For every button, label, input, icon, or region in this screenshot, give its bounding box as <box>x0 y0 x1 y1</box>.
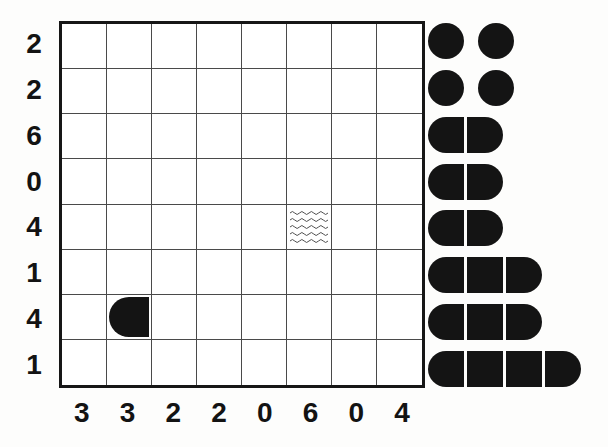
board-cell-r4-c1[interactable] <box>62 159 107 204</box>
board-cell-r5-c3[interactable] <box>152 205 197 250</box>
fleet-right-end-icon <box>467 117 503 153</box>
board-cell-r2-c6[interactable] <box>287 69 332 114</box>
row-clue-3: 6 <box>14 113 54 159</box>
board-cell-r5-c7[interactable] <box>332 205 377 250</box>
board-cell-r2-c8[interactable] <box>377 69 422 114</box>
board-cell-r2-c2[interactable] <box>107 69 152 114</box>
board-cell-r8-c2[interactable] <box>107 340 152 385</box>
col-clue-5: 0 <box>242 392 288 434</box>
board-cell-r4-c8[interactable] <box>377 159 422 204</box>
board-cell-r4-c7[interactable] <box>332 159 377 204</box>
board-cell-r1-c7[interactable] <box>332 24 377 69</box>
board-cell-r8-c7[interactable] <box>332 340 377 385</box>
board-cell-r3-c1[interactable] <box>62 114 107 159</box>
col-clue-8: 4 <box>379 392 425 434</box>
fleet-row-size-2-4 <box>428 163 603 201</box>
fleet-right-end-icon <box>506 257 542 293</box>
board-cell-r1-c6[interactable] <box>287 24 332 69</box>
ship-left-end-icon <box>109 297 149 337</box>
board-cell-r6-c5[interactable] <box>242 250 287 295</box>
board-cell-r4-c6[interactable] <box>287 159 332 204</box>
board-cell-r8-c5[interactable] <box>242 340 287 385</box>
board-cell-r3-c8[interactable] <box>377 114 422 159</box>
battleship-puzzle: 22604141 33220604 <box>0 0 608 447</box>
board-cell-r1-c5[interactable] <box>242 24 287 69</box>
column-clue-row: 33220604 <box>59 392 425 434</box>
board-cell-r3-c7[interactable] <box>332 114 377 159</box>
board-cell-r5-c4[interactable] <box>197 205 242 250</box>
board-cell-r3-c5[interactable] <box>242 114 287 159</box>
board-cell-r7-c2[interactable] <box>107 295 152 340</box>
board-cell-r7-c8[interactable] <box>377 295 422 340</box>
board-cell-r3-c3[interactable] <box>152 114 197 159</box>
board-cell-r1-c3[interactable] <box>152 24 197 69</box>
game-board[interactable] <box>59 21 425 388</box>
board-cell-r1-c8[interactable] <box>377 24 422 69</box>
row-clue-column: 22604141 <box>14 21 54 388</box>
fleet-left-end-icon <box>428 304 464 340</box>
fleet-submarine-icon <box>478 23 514 59</box>
col-clue-2: 3 <box>105 392 151 434</box>
col-clue-6: 6 <box>288 392 334 434</box>
board-cell-r7-c5[interactable] <box>242 295 287 340</box>
board-cell-r5-c6[interactable] <box>287 205 332 250</box>
fleet-left-end-icon <box>428 210 464 246</box>
fleet-left-end-icon <box>428 257 464 293</box>
board-cell-r5-c1[interactable] <box>62 205 107 250</box>
board-cell-r4-c2[interactable] <box>107 159 152 204</box>
board-cell-r6-c3[interactable] <box>152 250 197 295</box>
row-clue-2: 2 <box>14 67 54 113</box>
board-cell-r6-c1[interactable] <box>62 250 107 295</box>
fleet-row-size-3-6 <box>428 256 603 294</box>
board-cell-r1-c4[interactable] <box>197 24 242 69</box>
fleet-row-size-2-3 <box>428 116 603 154</box>
board-cell-r6-c2[interactable] <box>107 250 152 295</box>
board-cell-r8-c6[interactable] <box>287 340 332 385</box>
board-cell-r6-c8[interactable] <box>377 250 422 295</box>
row-clue-5: 4 <box>14 205 54 251</box>
fleet-right-end-icon <box>467 164 503 200</box>
board-cell-r1-c2[interactable] <box>107 24 152 69</box>
fleet-right-end-icon <box>467 210 503 246</box>
board-cell-r6-c7[interactable] <box>332 250 377 295</box>
board-cell-r2-c7[interactable] <box>332 69 377 114</box>
fleet-row-size-3-7 <box>428 303 603 341</box>
fleet-row-size-4-8 <box>428 350 603 388</box>
board-cell-r2-c5[interactable] <box>242 69 287 114</box>
board-cell-r4-c5[interactable] <box>242 159 287 204</box>
fleet-left-end-icon <box>428 351 464 387</box>
fleet-left-end-icon <box>428 164 464 200</box>
fleet-right-end-icon <box>545 351 581 387</box>
fleet-row-size-1-1 <box>428 22 603 60</box>
board-cell-r2-c3[interactable] <box>152 69 197 114</box>
board-cell-r6-c4[interactable] <box>197 250 242 295</box>
board-cell-r7-c7[interactable] <box>332 295 377 340</box>
board-cell-r7-c3[interactable] <box>152 295 197 340</box>
row-clue-1: 2 <box>14 21 54 67</box>
board-cell-r3-c2[interactable] <box>107 114 152 159</box>
board-cell-r7-c4[interactable] <box>197 295 242 340</box>
col-clue-7: 0 <box>334 392 380 434</box>
fleet-left-end-icon <box>428 117 464 153</box>
board-cell-r8-c1[interactable] <box>62 340 107 385</box>
board-cell-r7-c6[interactable] <box>287 295 332 340</box>
board-cell-r8-c8[interactable] <box>377 340 422 385</box>
board-cell-r3-c6[interactable] <box>287 114 332 159</box>
board-cell-r2-c4[interactable] <box>197 69 242 114</box>
fleet-middle-icon <box>467 304 503 340</box>
board-cell-r8-c3[interactable] <box>152 340 197 385</box>
board-cell-r7-c1[interactable] <box>62 295 107 340</box>
fleet-legend <box>428 22 603 388</box>
board-cell-r2-c1[interactable] <box>62 69 107 114</box>
fleet-submarine-icon <box>478 70 514 106</box>
board-cell-r5-c5[interactable] <box>242 205 287 250</box>
board-cell-r5-c8[interactable] <box>377 205 422 250</box>
board-cell-r3-c4[interactable] <box>197 114 242 159</box>
board-cell-r1-c1[interactable] <box>62 24 107 69</box>
board-cell-r4-c3[interactable] <box>152 159 197 204</box>
board-cell-r8-c4[interactable] <box>197 340 242 385</box>
fleet-row-size-1-2 <box>428 69 603 107</box>
board-cell-r4-c4[interactable] <box>197 159 242 204</box>
board-cell-r5-c2[interactable] <box>107 205 152 250</box>
board-cell-r6-c6[interactable] <box>287 250 332 295</box>
